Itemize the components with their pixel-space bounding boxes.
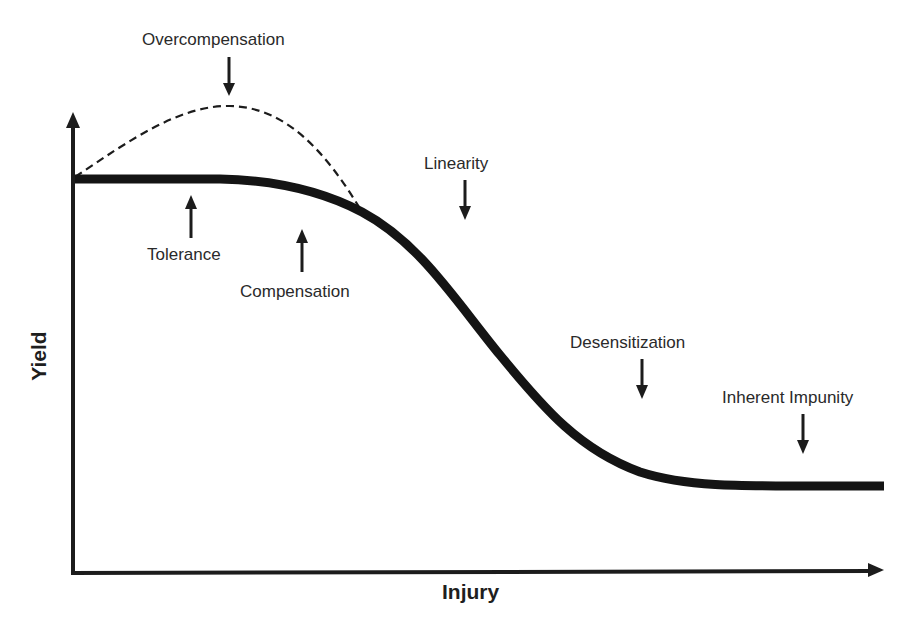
- overcompensation-label: Overcompensation: [142, 30, 285, 50]
- desensitization-label: Desensitization: [570, 333, 685, 353]
- yield-curve: [75, 179, 884, 486]
- tolerance-label: Tolerance: [147, 245, 221, 265]
- desensitization-arrow-icon: [636, 359, 648, 399]
- x-axis-title: Injury: [442, 580, 499, 604]
- compensation-arrow-icon: [296, 229, 308, 272]
- y-axis-title: Yield: [27, 331, 51, 380]
- y-axis-arrow-icon: [66, 112, 80, 128]
- x-axis-line: [71, 571, 872, 573]
- inherent-impunity-arrow-icon: [797, 414, 809, 454]
- overcompensation-arrow-icon: [223, 57, 235, 96]
- x-axis-arrow-icon: [868, 563, 884, 577]
- yield-injury-diagram: [0, 0, 912, 639]
- linearity-arrow-icon: [459, 180, 471, 220]
- compensation-label: Compensation: [240, 282, 350, 302]
- linearity-label: Linearity: [424, 154, 488, 174]
- tolerance-arrow-icon: [185, 195, 197, 238]
- inherent-impunity-label: Inherent Impunity: [722, 388, 853, 408]
- annotation-arrows: [185, 57, 809, 454]
